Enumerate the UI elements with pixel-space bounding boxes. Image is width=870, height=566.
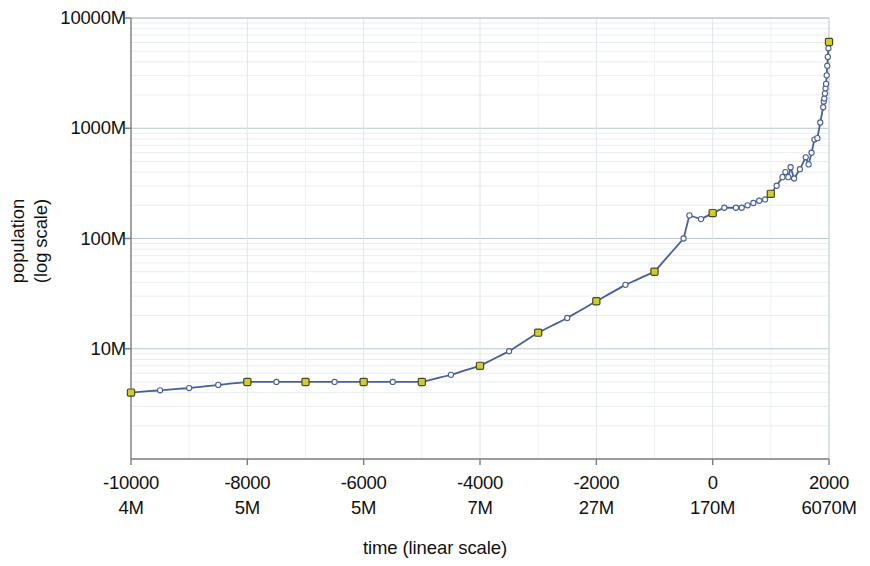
y-axis-ticks [125, 18, 131, 349]
plot-area [0, 0, 870, 566]
population-chart: population (log scale) 10000M1000M100M10… [0, 0, 870, 566]
x-axis-ticks [131, 459, 829, 465]
